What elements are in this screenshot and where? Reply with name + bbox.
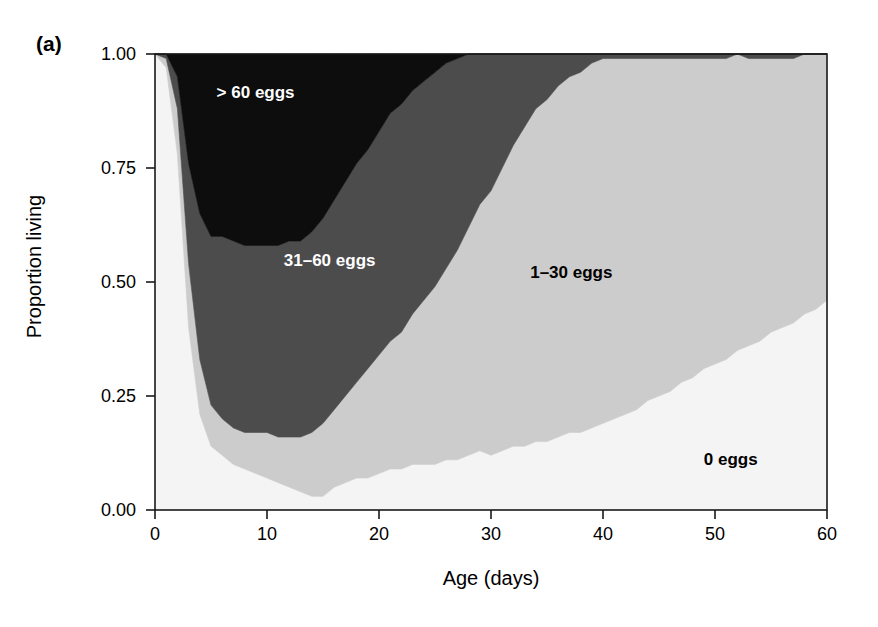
band-label: 1–30 eggs [530,263,612,283]
stacked-area-plot [0,0,878,627]
area-bands [155,54,827,510]
band-label: > 60 eggs [217,83,295,103]
band-label: 31–60 eggs [284,251,376,271]
figure-panel-a: (a) Proportion living Age (days) 1.00 0.… [0,0,878,627]
band-label: 0 eggs [704,450,758,470]
